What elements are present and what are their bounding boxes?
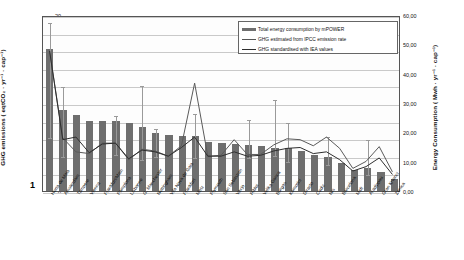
line-swatch-icon xyxy=(242,49,256,50)
chart-legend: Total energy consumption by mPOWER GHG e… xyxy=(238,21,398,54)
legend-item-ipcc: GHG estimated from IPCC emission rate xyxy=(242,34,394,44)
line-path xyxy=(50,51,393,172)
y-tick-label-secondary: 40,00 xyxy=(403,72,429,78)
x-axis-labels: Horta de MaiaAmsterdamTampereViennaFrank… xyxy=(42,193,400,259)
chart-container: GHG emissions ( eqtCO₂ · yr⁻¹ · cap⁻¹) E… xyxy=(0,0,464,260)
y-tick-label-secondary: 20,00 xyxy=(403,130,429,136)
left-axis-title: GHG emissions ( eqtCO₂ · yr⁻¹ · cap⁻¹) xyxy=(0,28,6,188)
y-tick-label-secondary: 30,00 xyxy=(403,101,429,107)
right-axis-title: Energy Consumption ( Mwh · yr⁻¹ · cap⁻¹) xyxy=(431,28,438,188)
bar-swatch-icon xyxy=(242,28,256,31)
right-axis-title-wrap: Energy Consumption ( Mwh · yr⁻¹ · cap⁻¹) xyxy=(434,16,446,192)
y-tick-label-secondary: 0,00 xyxy=(403,189,429,195)
y-tick-label-secondary: 60,00 xyxy=(403,13,429,19)
baseline-label: 1 xyxy=(30,180,35,190)
line-swatch-icon xyxy=(242,39,256,40)
y-tick-label-secondary: 50,00 xyxy=(403,42,429,48)
legend-item-iea: GHG standardised with IEA values xyxy=(242,44,394,54)
legend-item-bar: Total energy consumption by mPOWER xyxy=(242,24,394,34)
legend-label: GHG standardised with IEA values xyxy=(258,47,333,52)
legend-label: GHG estimated from IPCC emission rate xyxy=(258,37,346,42)
y-tick-label-secondary: 10,00 xyxy=(403,160,429,166)
line-path xyxy=(50,51,393,175)
left-axis-title-wrap: GHG emissions ( eqtCO₂ · yr⁻¹ · cap⁻¹) xyxy=(2,16,14,192)
legend-label: Total energy consumption by mPOWER xyxy=(258,27,344,32)
